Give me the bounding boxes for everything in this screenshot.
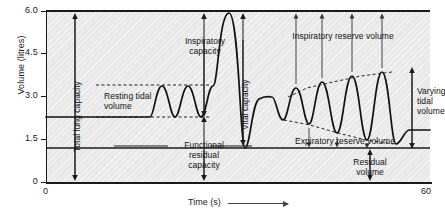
annotation-expiratory-reserve-volume: Expiratory reserve volume [283,136,407,146]
annotation-resting-tidal-volume: Resting tidal volume [104,91,174,111]
annotation-inspiratory-capacity: Inspiratory capacity [159,36,251,56]
annotation-varying-tidal-volume: Varying tidal volume [417,86,445,116]
annotation-functional-residual-capacity: Functional residual capacity [168,140,240,170]
annotation-inspiratory-reserve-volume: Inspiratory reserve volume [283,31,403,41]
annotation-residual-volume: Residual volume [342,157,398,177]
annotation-vital-capacity: Vital capacity [240,79,250,130]
spirogram-figure: 6.0 4.5 3.0 1.5 0 Volume (litres) 0 60 T… [0,0,445,219]
annotation-total-lung-capacity: Total lung capacity [72,81,82,152]
